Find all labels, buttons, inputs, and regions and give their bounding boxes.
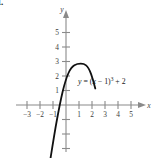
y-tick-label: 4 [55,43,59,52]
equation-annotation: y = (x − 1)3 + 2 [77,76,126,86]
y-tick-label: 2 [55,72,59,81]
graph-figure: 1. [0,0,160,158]
x-axis [16,102,146,108]
eq-minus-one: − 1 [96,77,108,86]
x-axis-arrowhead [138,102,146,108]
y-tick-label: 5 [55,28,59,37]
problem-number-label: 1. [0,0,3,7]
x-tick-label: −1 [49,110,57,119]
eq-plus-two: + 2 [113,77,125,86]
y-tick-label: 3 [55,57,59,66]
x-tick-label: −3 [23,110,31,119]
x-tick-label: 4 [116,110,120,119]
eq-equals: = [81,77,89,86]
y-axis-name-label: y [59,5,64,14]
y-tick-labels: 1 2 3 4 5 [55,28,59,95]
x-tick-label: 3 [103,110,107,119]
x-axis-name-label: x [146,101,151,110]
y-axis-arrowhead [63,10,69,18]
x-tick-label: −2 [36,110,44,119]
x-tick-label: 1 [77,110,81,119]
y-tick-label: 1 [55,86,59,95]
x-tick-label: 2 [90,110,94,119]
x-tick-labels: −3 −2 −1 1 2 3 4 5 [23,110,133,119]
x-tick-label: 5 [129,110,133,119]
cartesian-plot: −3 −2 −1 1 2 3 4 5 1 2 3 4 5 x y [0,0,160,158]
